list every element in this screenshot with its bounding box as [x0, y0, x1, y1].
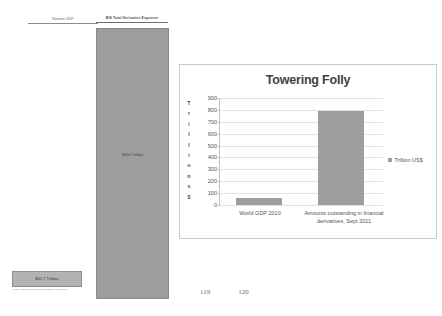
y-axis-tick-label: 500 [208, 143, 217, 149]
legend-label: Trillion US$ [395, 157, 423, 163]
y-axis-tick-label: 100 [208, 190, 217, 196]
y-axis-tick-mark [218, 193, 220, 194]
y-axis-tick-label: 900 [208, 95, 217, 101]
page-numbers: 119 120 [200, 288, 290, 296]
chart-gridline [220, 98, 383, 99]
page-number-left: 119 [200, 288, 210, 296]
y-axis-title-char: r [184, 108, 194, 118]
y-axis-tick-mark [218, 122, 220, 123]
y-axis-title-char: n [184, 171, 194, 181]
category-label-derivatives: Amounts outstanding in financial derivat… [300, 210, 388, 225]
y-axis-tick-label: 0 [214, 202, 217, 208]
y-axis-tick-label: 600 [208, 131, 217, 137]
y-axis-tick-label: 700 [208, 119, 217, 125]
y-axis-tick-mark [218, 181, 220, 182]
y-axis-tick-label: 200 [208, 178, 217, 184]
gdp-column-header: Nations GDP [28, 17, 98, 24]
y-axis-title-char: $ [184, 192, 194, 202]
gdp-bar: $62.7 Trillion [12, 271, 82, 287]
y-axis-tick-mark [218, 157, 220, 158]
chart-bar [236, 198, 282, 205]
gdp-bar-value-label: $62.7 Trillion [35, 277, 59, 281]
y-axis-title-char: l [184, 140, 194, 150]
source-note: Source: Bank for International Settlemen… [13, 288, 85, 291]
derivatives-bar-value-label: $55x Trillion [97, 153, 168, 157]
chart-gridline [220, 205, 383, 206]
y-axis-title-char: i [184, 150, 194, 160]
chart-legend: Trillion US$ [388, 157, 423, 163]
y-axis-tick-mark [218, 134, 220, 135]
y-axis-tick-label: 300 [208, 166, 217, 172]
y-axis-title-char: l [184, 129, 194, 139]
chart-title: Towering Folly [180, 73, 436, 87]
y-axis-tick-label: 800 [208, 107, 217, 113]
y-axis-tick-mark [218, 98, 220, 99]
y-axis-title-char: s [184, 181, 194, 191]
legend-swatch-icon [388, 158, 392, 162]
gdp-vs-derivatives-slide: Nations GDP BIS Total Derivative Exposur… [0, 0, 180, 316]
chart-plot-area: 9008007006005004003002001000 [219, 98, 383, 206]
derivatives-column-header: BIS Total Derivative Exposure [96, 16, 168, 23]
y-axis-title-char: T [184, 98, 194, 108]
towering-folly-chart: Towering Folly Trillions$ 90080070060050… [179, 64, 437, 239]
y-axis-tick-label: 400 [208, 154, 217, 160]
y-axis-title-char: i [184, 119, 194, 129]
page-number-right: 120 [238, 288, 249, 296]
y-axis-tick-mark [218, 110, 220, 111]
y-axis-tick-mark [218, 205, 220, 206]
y-axis-title: Trillions$ [184, 98, 194, 202]
category-label-world-gdp: World GDP 2010 [219, 210, 301, 218]
y-axis-tick-mark [218, 146, 220, 147]
y-axis-title-char: o [184, 160, 194, 170]
y-axis-tick-mark [218, 169, 220, 170]
derivatives-bar: $55x Trillion [96, 28, 169, 299]
chart-bar [318, 111, 364, 205]
